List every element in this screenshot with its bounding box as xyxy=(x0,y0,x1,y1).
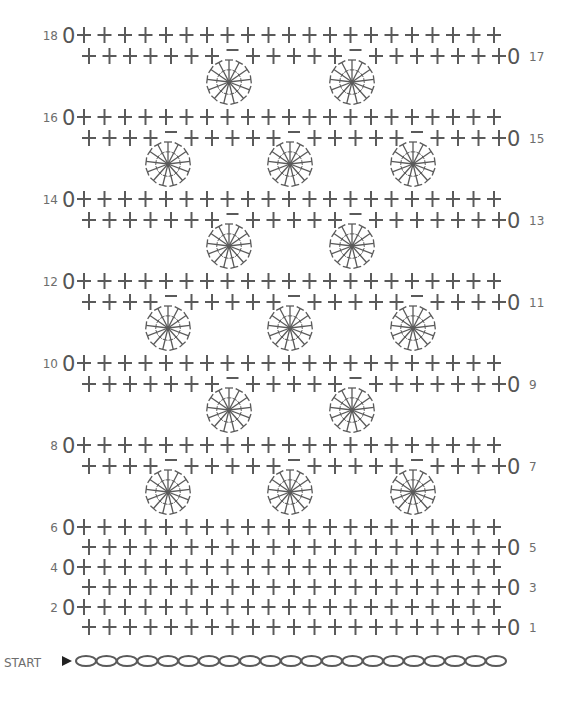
chain-stitch xyxy=(302,656,322,666)
row-18: 018 xyxy=(43,24,501,48)
shell-icon xyxy=(207,60,252,104)
row-10: 010 xyxy=(43,352,501,376)
shell-icon xyxy=(330,388,375,432)
turning-chain: 0 xyxy=(62,270,75,294)
crochet-chart: 0180170160150140130120110100908070605040… xyxy=(0,0,567,711)
row-number: 8 xyxy=(50,439,58,453)
row-5: 05 xyxy=(82,536,537,560)
chain-stitch xyxy=(466,656,486,666)
row-3: 03 xyxy=(82,576,537,600)
shell-icon xyxy=(146,142,191,186)
chain-stitch xyxy=(97,656,117,666)
chain-stitch xyxy=(179,656,199,666)
row-12: 012 xyxy=(43,270,501,294)
shell-icon xyxy=(268,470,313,514)
turning-chain: 0 xyxy=(507,209,520,233)
turning-chain: 0 xyxy=(62,188,75,212)
turning-chain: 0 xyxy=(507,455,520,479)
turning-chain: 0 xyxy=(507,45,520,69)
turning-chain: 0 xyxy=(62,106,75,130)
row-number: 6 xyxy=(50,521,58,535)
chain-stitch xyxy=(363,656,383,666)
turning-chain: 0 xyxy=(507,291,520,315)
row-8: 08 xyxy=(50,434,501,458)
shell-icon xyxy=(207,388,252,432)
shell-icon xyxy=(391,470,436,514)
row-number: 14 xyxy=(43,193,58,207)
row-16: 016 xyxy=(43,106,501,130)
chain-stitch xyxy=(322,656,342,666)
chain-stitch xyxy=(240,656,260,666)
foundation-chain xyxy=(76,656,506,666)
shell-icon xyxy=(391,306,436,350)
row-number: 9 xyxy=(529,378,537,392)
chain-stitch xyxy=(445,656,465,666)
row-6: 06 xyxy=(50,516,501,540)
shell-icon xyxy=(330,224,375,268)
chain-stitch xyxy=(138,656,158,666)
row-number: 7 xyxy=(529,460,537,474)
row-1: 01 xyxy=(82,616,537,640)
row-15: 015 xyxy=(82,127,544,151)
chain-stitch xyxy=(281,656,301,666)
row-number: 15 xyxy=(529,132,544,146)
row-number: 12 xyxy=(43,275,58,289)
chain-stitch xyxy=(76,656,96,666)
row-number: 13 xyxy=(529,214,544,228)
shell-icon xyxy=(268,142,313,186)
chain-stitch xyxy=(261,656,281,666)
chain-stitch xyxy=(117,656,137,666)
start-label: START xyxy=(4,656,42,670)
row-9: 09 xyxy=(82,373,537,397)
row-2: 02 xyxy=(50,596,501,620)
turning-chain: 0 xyxy=(507,373,520,397)
shell-icon xyxy=(391,142,436,186)
shell-icon xyxy=(330,60,375,104)
shell-icon xyxy=(146,470,191,514)
turning-chain: 0 xyxy=(62,596,75,620)
turning-chain: 0 xyxy=(62,556,75,580)
row-number: 11 xyxy=(529,296,544,310)
chain-stitch xyxy=(384,656,404,666)
row-17: 017 xyxy=(82,45,544,69)
row-14: 014 xyxy=(43,188,501,212)
turning-chain: 0 xyxy=(62,24,75,48)
chain-stitch xyxy=(486,656,506,666)
row-number: 5 xyxy=(529,541,537,555)
shell-icon xyxy=(268,306,313,350)
start-marker: START xyxy=(4,656,72,670)
chain-stitch xyxy=(220,656,240,666)
start-arrow-icon xyxy=(62,656,72,666)
shell-icon xyxy=(207,224,252,268)
row-number: 16 xyxy=(43,111,58,125)
turning-chain: 0 xyxy=(62,434,75,458)
row-7: 07 xyxy=(82,455,537,479)
chain-stitch xyxy=(158,656,178,666)
turning-chain: 0 xyxy=(507,536,520,560)
chain-stitch xyxy=(343,656,363,666)
row-number: 3 xyxy=(529,581,537,595)
chain-stitch xyxy=(199,656,219,666)
turning-chain: 0 xyxy=(62,516,75,540)
row-number: 2 xyxy=(50,601,58,615)
row-number: 4 xyxy=(50,561,58,575)
row-number: 10 xyxy=(43,357,58,371)
shell-icon xyxy=(146,306,191,350)
turning-chain: 0 xyxy=(507,127,520,151)
turning-chain: 0 xyxy=(62,352,75,376)
row-13: 013 xyxy=(82,209,544,233)
turning-chain: 0 xyxy=(507,616,520,640)
row-11: 011 xyxy=(82,291,544,315)
chain-stitch xyxy=(425,656,445,666)
row-4: 04 xyxy=(50,556,501,580)
row-number: 17 xyxy=(529,50,544,64)
row-number: 18 xyxy=(43,29,58,43)
turning-chain: 0 xyxy=(507,576,520,600)
row-number: 1 xyxy=(529,621,537,635)
chain-stitch xyxy=(404,656,424,666)
